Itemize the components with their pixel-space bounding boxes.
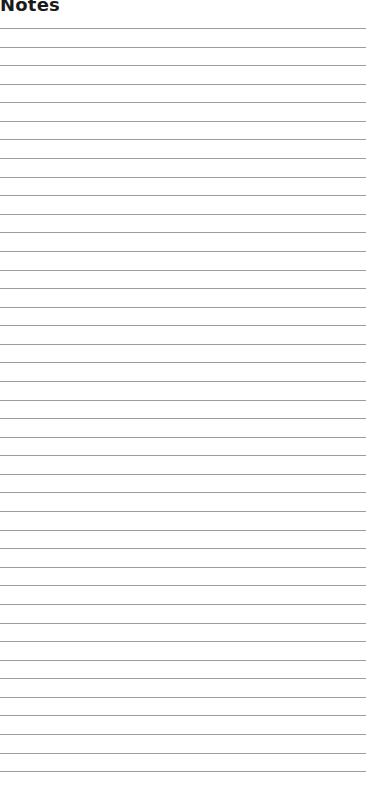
ruled-line [0, 697, 366, 698]
ruled-line [0, 381, 366, 382]
ruled-line [0, 511, 366, 512]
ruled-line [0, 344, 366, 345]
ruled-line [0, 548, 366, 549]
ruled-line [0, 47, 366, 48]
ruled-line [0, 492, 366, 493]
ruled-line [0, 660, 366, 661]
ruled-line [0, 715, 366, 716]
ruled-line [0, 325, 366, 326]
ruled-line [0, 28, 366, 29]
ruled-line [0, 362, 366, 363]
ruled-line [0, 604, 366, 605]
ruled-line [0, 567, 366, 568]
ruled-line [0, 158, 366, 159]
ruled-line [0, 530, 366, 531]
ruled-line [0, 418, 366, 419]
ruled-line [0, 771, 366, 772]
ruled-line [0, 65, 366, 66]
ruled-line [0, 455, 366, 456]
ruled-line [0, 307, 366, 308]
ruled-line [0, 678, 366, 679]
ruled-line [0, 400, 366, 401]
ruled-line [0, 437, 366, 438]
ruled-line [0, 139, 366, 140]
ruled-line [0, 270, 366, 271]
ruled-line [0, 623, 366, 624]
ruled-line [0, 102, 366, 103]
ruled-line [0, 734, 366, 735]
ruled-line [0, 641, 366, 642]
ruled-line [0, 753, 366, 754]
ruled-line [0, 585, 366, 586]
ruled-line [0, 288, 366, 289]
ruled-line [0, 84, 366, 85]
ruled-line [0, 232, 366, 233]
ruled-line [0, 214, 366, 215]
ruled-line [0, 251, 366, 252]
ruled-line [0, 177, 366, 178]
ruled-line [0, 474, 366, 475]
ruled-line [0, 195, 366, 196]
ruled-line [0, 121, 366, 122]
ruled-lines-area[interactable] [0, 0, 366, 787]
